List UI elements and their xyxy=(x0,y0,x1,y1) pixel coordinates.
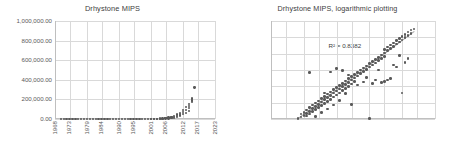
y-axis-line xyxy=(271,21,272,119)
data-point xyxy=(353,80,356,83)
gridline-vertical xyxy=(369,21,370,119)
x-axis-tick-label: 1968 xyxy=(52,121,58,135)
y-axis-tick-label: 400,000.00 xyxy=(22,77,53,83)
data-point xyxy=(356,75,359,78)
plot-area-log: R² = 0.8382 xyxy=(271,21,435,119)
gridline-vertical xyxy=(337,21,338,119)
data-point xyxy=(371,82,374,85)
data-point xyxy=(389,77,392,80)
chart-drhystone-mips-log[interactable]: Drhystone MIPS, logarithmic plotting R² … xyxy=(225,0,450,151)
data-point xyxy=(193,86,195,88)
data-point xyxy=(359,72,362,75)
gridline-vertical xyxy=(70,21,71,119)
gridline-vertical xyxy=(286,21,287,119)
data-point xyxy=(308,71,311,74)
data-point xyxy=(323,92,326,95)
x-axis-tick-label: 1984 xyxy=(98,121,104,135)
gridline-vertical xyxy=(215,21,216,119)
chart-title-log: Drhystone MIPS, logarithmic plotting xyxy=(225,4,450,13)
x-axis-tick-label: 2023 xyxy=(212,121,218,135)
gridline-vertical xyxy=(183,21,184,119)
data-point xyxy=(380,57,383,60)
data-point xyxy=(156,118,158,120)
gridline-horizontal xyxy=(271,21,435,22)
data-point xyxy=(392,45,395,48)
gridline-vertical xyxy=(87,21,88,119)
data-point xyxy=(124,118,126,120)
chart-title-linear: Drhystone MIPS xyxy=(0,4,225,13)
data-point xyxy=(398,54,401,57)
data-point xyxy=(350,103,353,106)
gridline-vertical xyxy=(198,21,199,119)
data-point xyxy=(329,98,332,101)
data-point xyxy=(191,99,193,101)
data-point xyxy=(383,52,386,55)
x-axis-tick-label: 1995 xyxy=(130,121,136,135)
gridline-horizontal xyxy=(271,119,435,120)
chart-drhystone-mips-linear[interactable]: Drhystone MIPS 0.00200,000.00400,000.006… xyxy=(0,0,225,151)
x-axis-labels-linear: 1968197319791984199019952001200620122017… xyxy=(55,121,215,149)
y-axis-line xyxy=(55,21,56,119)
data-point xyxy=(314,115,317,118)
data-point xyxy=(365,76,368,79)
y-axis-labels-linear: 0.00200,000.00400,000.00600,000.00800,00… xyxy=(0,21,52,119)
data-point xyxy=(60,118,62,120)
x-axis-tick-label: 2006 xyxy=(162,121,168,135)
gridline-horizontal xyxy=(271,103,435,104)
data-point xyxy=(368,117,371,120)
gridline-vertical xyxy=(119,21,120,119)
data-point xyxy=(341,69,344,72)
data-point xyxy=(374,79,377,82)
r-squared-annotation: R² = 0.8382 xyxy=(329,42,362,49)
gridline-horizontal xyxy=(55,21,215,22)
gridline-vertical xyxy=(384,21,385,119)
data-point xyxy=(377,59,380,62)
gridline-vertical xyxy=(151,21,152,119)
y-axis-tick-label: 800,000.00 xyxy=(22,38,53,44)
data-point xyxy=(398,41,401,44)
data-point xyxy=(374,62,377,65)
gridline-vertical xyxy=(166,21,167,119)
data-point xyxy=(347,85,350,88)
x-axis-line xyxy=(271,118,435,119)
gridline-vertical xyxy=(417,21,418,119)
gridline-vertical xyxy=(102,21,103,119)
data-point xyxy=(92,118,94,120)
y-axis-tick-label: 1,000,000.00 xyxy=(16,18,52,24)
spreadsheet-chart-canvas: Drhystone MIPS 0.00200,000.00400,000.006… xyxy=(0,0,450,151)
gridline-vertical xyxy=(435,21,436,119)
plot-background xyxy=(55,21,215,119)
gridline-horizontal xyxy=(55,41,215,42)
y-axis-tick-label: 200,000.00 xyxy=(22,96,53,102)
data-point xyxy=(338,99,341,102)
data-point xyxy=(335,94,338,97)
x-axis-tick-label: 2017 xyxy=(194,121,200,135)
y-axis-tick-label: 600,000.00 xyxy=(22,57,53,63)
gridline-vertical xyxy=(134,21,135,119)
data-point xyxy=(161,118,163,120)
data-point xyxy=(350,83,353,86)
data-point xyxy=(335,67,338,70)
data-point xyxy=(365,68,368,71)
x-axis-tick-label: 1973 xyxy=(66,121,72,135)
data-point xyxy=(167,117,169,119)
gridline-vertical xyxy=(304,21,305,119)
data-point xyxy=(338,92,341,95)
gridline-horizontal xyxy=(271,37,435,38)
data-point xyxy=(389,47,392,50)
x-axis-tick-label: 1990 xyxy=(116,121,122,135)
data-point xyxy=(383,55,386,58)
data-point xyxy=(297,117,300,120)
gridline-horizontal xyxy=(271,54,435,55)
gridline-horizontal xyxy=(55,80,215,81)
data-point xyxy=(347,74,350,77)
data-point xyxy=(320,104,323,107)
x-axis-tick-label: 2001 xyxy=(148,121,154,135)
data-point xyxy=(377,69,380,72)
data-point xyxy=(320,111,323,114)
gridline-horizontal xyxy=(271,86,435,87)
gridline-horizontal xyxy=(55,60,215,61)
gridline-horizontal xyxy=(271,70,435,71)
data-point xyxy=(386,49,389,52)
plot-area-linear xyxy=(55,21,215,119)
